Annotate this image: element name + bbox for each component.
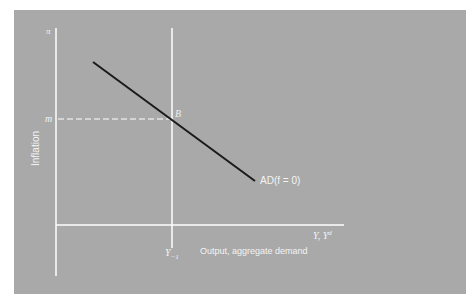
x-axis-symbol-text: Y, Y <box>313 230 328 241</box>
ad-curve <box>93 62 255 181</box>
diagram-canvas <box>0 0 476 305</box>
x-axis-label: Output, aggregate demand <box>200 246 308 256</box>
x-axis-symbol-sup: d <box>328 229 332 237</box>
y-tick-label-m: m <box>45 113 52 124</box>
y-axis-symbol: π <box>46 26 51 36</box>
point-label-b: B <box>175 108 181 119</box>
x-axis-symbol: Y, Yd <box>313 229 332 241</box>
x-tick-label-y-minus-1: Y−1 <box>165 247 179 261</box>
curve-label-ad: AD(f = 0) <box>260 175 300 186</box>
y-axis-label: Inflation <box>30 131 41 166</box>
x-tick-sub: −1 <box>171 253 179 261</box>
